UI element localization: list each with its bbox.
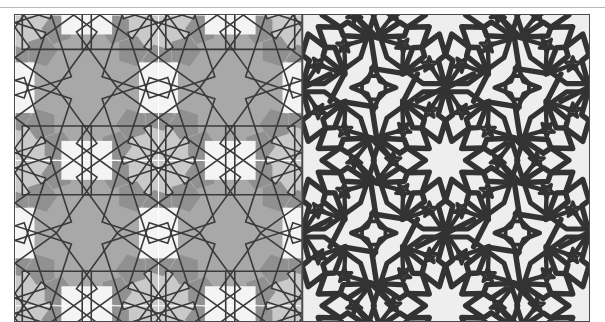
construction-panel [15,15,302,321]
finished-pattern [302,15,589,321]
top-horizontal-rule [0,7,605,8]
finished-panel [302,15,589,321]
panel-divider [301,15,303,321]
construction-drawing [15,15,302,321]
figure-root [0,0,605,322]
pattern-frame [14,14,590,322]
